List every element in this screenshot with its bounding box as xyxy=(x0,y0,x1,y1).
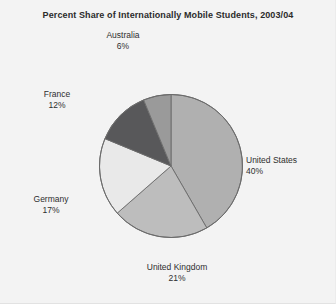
slice-label-united-states: United States 40% xyxy=(246,155,297,177)
slice-label-name: France xyxy=(14,89,100,100)
slice-label-australia: Australia 6% xyxy=(76,30,170,52)
slice-label-france: France 12% xyxy=(14,89,100,111)
slice-label-name: United States xyxy=(246,155,297,166)
slice-label-value: 6% xyxy=(76,41,170,52)
slice-label-value: 21% xyxy=(112,273,242,284)
pie-slice-group xyxy=(99,95,242,238)
slice-label-germany: Germany 17% xyxy=(8,194,94,216)
slice-label-value: 12% xyxy=(14,100,100,111)
slice-label-name: United Kingdom xyxy=(112,262,242,273)
slice-label-value: 17% xyxy=(8,205,94,216)
chart-figure: Percent Share of Internationally Mobile … xyxy=(0,0,336,304)
slice-label-value: 40% xyxy=(246,166,297,177)
slice-label-name: Australia xyxy=(76,30,170,41)
slice-label-united-kingdom: United Kingdom 21% xyxy=(112,262,242,284)
slice-label-name: Germany xyxy=(8,194,94,205)
